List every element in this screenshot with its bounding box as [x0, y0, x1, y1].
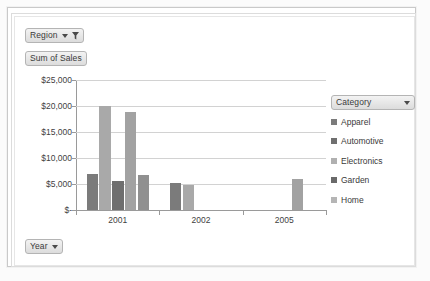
bar-electronics-2001[interactable] — [112, 181, 123, 210]
y-axis-tick — [72, 158, 76, 159]
gridline — [76, 80, 326, 81]
legend-item-label: Automotive — [341, 136, 384, 146]
bar-garden-2001[interactable] — [125, 112, 136, 210]
y-axis-tick — [72, 106, 76, 107]
pivot-field-label-region: Region — [30, 29, 58, 42]
legend-item-home[interactable]: Home — [331, 190, 430, 210]
pivot-field-label-category: Category — [336, 96, 371, 109]
y-axis-line — [76, 80, 77, 211]
y-axis-tick-label: $20,000 — [41, 101, 72, 111]
bar-apparel-2001[interactable] — [87, 174, 98, 210]
pivot-field-button-category[interactable]: Category — [331, 95, 415, 110]
bar-garden-2005[interactable] — [292, 179, 303, 210]
pivot-value-label: Sum of Sales — [30, 52, 82, 65]
x-axis-tick-label: 2002 — [192, 215, 211, 225]
legend-item-label: Apparel — [341, 117, 370, 127]
y-axis-tick — [72, 184, 76, 185]
filter-funnel-icon — [72, 32, 79, 40]
legend-item-label: Garden — [341, 175, 369, 185]
legend-item-automotive[interactable]: Automotive — [331, 132, 430, 152]
legend-item-label: Home — [341, 195, 364, 205]
y-axis-tick-label: $15,000 — [41, 127, 72, 137]
legend-item-electronics[interactable]: Electronics — [331, 151, 430, 171]
chart-legend: ApparelAutomotiveElectronicsGardenHome — [331, 112, 430, 210]
bar-automotive-2001[interactable] — [99, 106, 110, 210]
y-axis-tick — [72, 80, 76, 81]
gridline — [76, 158, 326, 159]
chevron-down-icon — [52, 245, 58, 249]
pivotchart-canvas: Region Sum of Sales Year Category $25,00… — [14, 16, 415, 266]
y-axis-tick-label: $25,000 — [41, 75, 72, 85]
bar-automotive-2002[interactable] — [183, 185, 194, 210]
x-axis-tick — [76, 210, 77, 215]
gridline — [76, 132, 326, 133]
y-axis-tick-label: $5,000 — [46, 179, 72, 189]
y-axis-tick-label: $10,000 — [41, 153, 72, 163]
legend-swatch-icon — [331, 177, 337, 183]
y-axis-tick — [72, 132, 76, 133]
plot-area: 200120022005 — [76, 80, 326, 210]
x-axis-tick — [159, 210, 160, 215]
legend-swatch-icon — [331, 119, 337, 125]
y-axis-tick-labels: $25,000$20,000$15,000$10,000$5,000$- — [18, 80, 72, 211]
x-axis-tick — [326, 210, 327, 215]
bar-home-2001[interactable] — [138, 175, 149, 210]
bar-apparel-2002[interactable] — [170, 183, 181, 210]
legend-item-apparel[interactable]: Apparel — [331, 112, 430, 132]
legend-swatch-icon — [331, 158, 337, 164]
pivot-field-button-region[interactable]: Region — [25, 28, 84, 43]
legend-swatch-icon — [331, 197, 337, 203]
x-axis-tick — [243, 210, 244, 215]
pivotchart-screenshot: Region Sum of Sales Year Category $25,00… — [0, 0, 430, 281]
legend-item-label: Electronics — [341, 156, 383, 166]
pivot-value-button-sum-of-sales[interactable]: Sum of Sales — [25, 51, 87, 66]
y-axis-tick-label: $- — [64, 205, 72, 215]
chevron-down-icon — [404, 101, 410, 105]
legend-swatch-icon — [331, 138, 337, 144]
legend-item-garden[interactable]: Garden — [331, 171, 430, 191]
x-axis-tick-label: 2005 — [275, 215, 294, 225]
x-axis-tick-label: 2001 — [108, 215, 127, 225]
gridline — [76, 106, 326, 107]
pivot-field-label-year: Year — [30, 240, 48, 253]
pivot-field-button-year[interactable]: Year — [25, 239, 63, 254]
x-axis-line — [76, 210, 326, 211]
chevron-down-icon — [62, 34, 68, 38]
